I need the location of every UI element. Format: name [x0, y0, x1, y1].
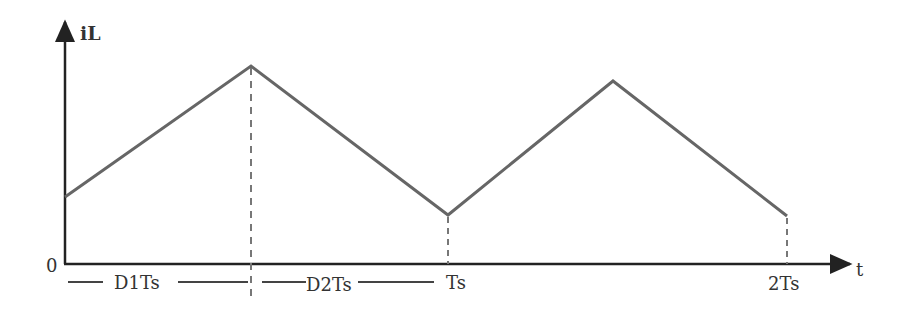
ts-label: Ts [446, 272, 466, 293]
d2ts-label: D2Ts [306, 274, 352, 295]
2ts-label: 2Ts [768, 273, 799, 294]
y-axis-label: iL [80, 22, 101, 44]
inductor-current-waveform [65, 66, 787, 216]
d1ts-label: D1Ts [114, 272, 160, 293]
inductor-current-diagram: iL t 0 D1Ts D2Ts Ts 2Ts [0, 0, 900, 309]
origin-label: 0 [46, 255, 57, 276]
x-axis-label: t [856, 259, 864, 280]
